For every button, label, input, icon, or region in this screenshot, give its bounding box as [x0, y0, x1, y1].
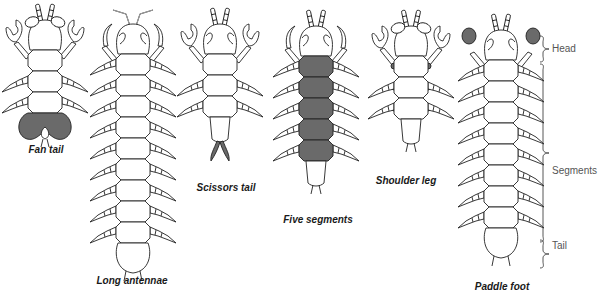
label-scissors-tail: Scissors tail	[197, 182, 256, 193]
label-fan-tail: Fan tail	[28, 144, 63, 155]
label-shoulder-leg: Shoulder leg	[376, 175, 437, 186]
creature-five-segments	[273, 10, 359, 194]
label-paddle-foot: Paddle foot	[475, 281, 529, 292]
creature-scissors-tail	[177, 8, 263, 161]
key-label-tail: Tail	[552, 240, 567, 251]
creature-shoulder-leg	[368, 10, 454, 152]
creature-variations-diagram: Fan tail Long antennae Scissors tail Fiv…	[0, 0, 598, 295]
key-label-segments: Segments	[552, 165, 597, 176]
diagram-artwork	[0, 0, 598, 295]
creature-fan-tail	[2, 4, 88, 147]
label-five-segments: Five segments	[283, 214, 352, 225]
label-long-antennae: Long antennae	[96, 275, 167, 286]
creature-paddle-foot	[458, 14, 544, 266]
key-label-head: Head	[552, 43, 576, 54]
anatomy-key-braces	[540, 36, 549, 268]
creature-long-antennae	[90, 10, 176, 281]
